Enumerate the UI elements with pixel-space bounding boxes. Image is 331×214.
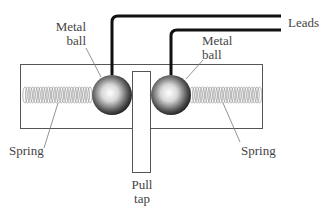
label-spring-left: Spring — [9, 144, 44, 158]
label-metal-ball-left: Metal ball — [50, 20, 86, 48]
label-pull-tap-line2: tap — [128, 192, 156, 206]
label-metal-ball-left-line2: ball — [50, 34, 86, 48]
label-pull-tap: Pull tap — [128, 178, 156, 206]
leader-spring-left — [44, 103, 58, 148]
label-spring-right: Spring — [241, 144, 276, 158]
metal-ball-right — [151, 75, 191, 115]
leader-spring-right — [223, 103, 240, 142]
lead-wire-left — [112, 16, 281, 75]
label-leads: Leads — [288, 16, 319, 30]
spring-right-coil — [190, 87, 262, 103]
label-metal-ball-right-line2: ball — [202, 48, 232, 62]
label-metal-ball-right-line1: Metal — [202, 34, 232, 48]
leader-metal-ball-right — [186, 60, 203, 79]
pull-tap-switch-diagram: Leads Metal ball Metal ball Spring Sprin… — [0, 0, 331, 214]
pull-tap — [133, 72, 151, 173]
metal-ball-left — [92, 75, 132, 115]
leader-metal-ball-left — [86, 48, 101, 77]
label-pull-tap-line1: Pull — [128, 178, 156, 192]
spring-left-coil — [23, 87, 92, 103]
label-metal-ball-right: Metal ball — [202, 34, 232, 62]
label-metal-ball-left-line1: Metal — [50, 20, 86, 34]
